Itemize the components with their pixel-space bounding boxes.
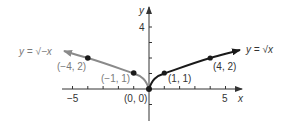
point-4-2 (208, 55, 213, 60)
label-point-neg4-2: (−4, 2) (57, 61, 86, 72)
label-point-1-1: (1, 1) (168, 73, 191, 84)
x-axis-label: x (237, 93, 244, 104)
label-point-4-2: (4, 2) (213, 61, 236, 72)
label-right-curve: y = √x (245, 44, 274, 55)
point-neg4-2 (85, 55, 91, 61)
y-axis-label: y (138, 5, 145, 16)
x-tick-label-5: 5 (222, 93, 228, 104)
sqrt-graph: y 4 −5 5 x y = √−x y = √x (−4, 2) (−1, 1… (0, 0, 288, 130)
label-left-curve: y = √−x (18, 46, 53, 57)
point-1-1 (162, 70, 167, 75)
x-tick-label-neg5: −5 (67, 93, 79, 104)
point-neg1-1 (131, 70, 137, 76)
label-point-origin: (0, 0) (124, 93, 147, 104)
y-tick-label-4: 4 (139, 22, 145, 33)
label-point-neg1-1: (−1, 1) (101, 73, 130, 84)
point-origin (146, 86, 152, 92)
